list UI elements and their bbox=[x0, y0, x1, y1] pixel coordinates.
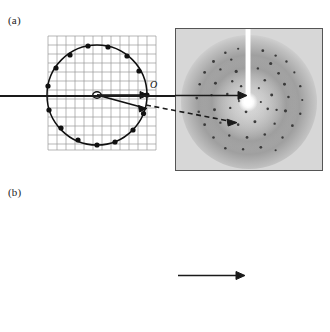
diffraction-photo-a bbox=[175, 28, 323, 171]
panel-b: (b) bbox=[0, 166, 330, 332]
origin-label-a: O bbox=[150, 79, 157, 90]
panel-a: (a) bbox=[0, 0, 330, 166]
incident-beam-a bbox=[0, 95, 178, 97]
panel-b-label: (b) bbox=[8, 186, 21, 198]
panel-a-label: (a) bbox=[8, 14, 21, 26]
ewald-diagram-a: O bbox=[42, 30, 162, 156]
figure-root: (a) bbox=[0, 0, 330, 332]
